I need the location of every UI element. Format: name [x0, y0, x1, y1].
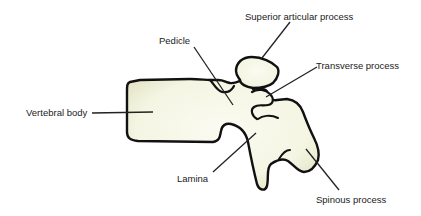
- label-pedicle: Pedicle: [159, 36, 190, 46]
- label-superior-articular-process: Superior articular process: [245, 12, 353, 22]
- superior-articular-process-shape: [236, 57, 278, 88]
- label-lamina: Lamina: [177, 174, 208, 184]
- label-transverse-process: Transverse process: [316, 61, 399, 71]
- vertebra-diagram: Vertebral body Pedicle Superior articula…: [0, 0, 421, 216]
- leader-superior-articular: [262, 22, 290, 58]
- vertebra-outline: [127, 79, 319, 190]
- label-spinous-process: Spinous process: [316, 195, 386, 205]
- label-vertebral-body: Vertebral body: [26, 108, 87, 118]
